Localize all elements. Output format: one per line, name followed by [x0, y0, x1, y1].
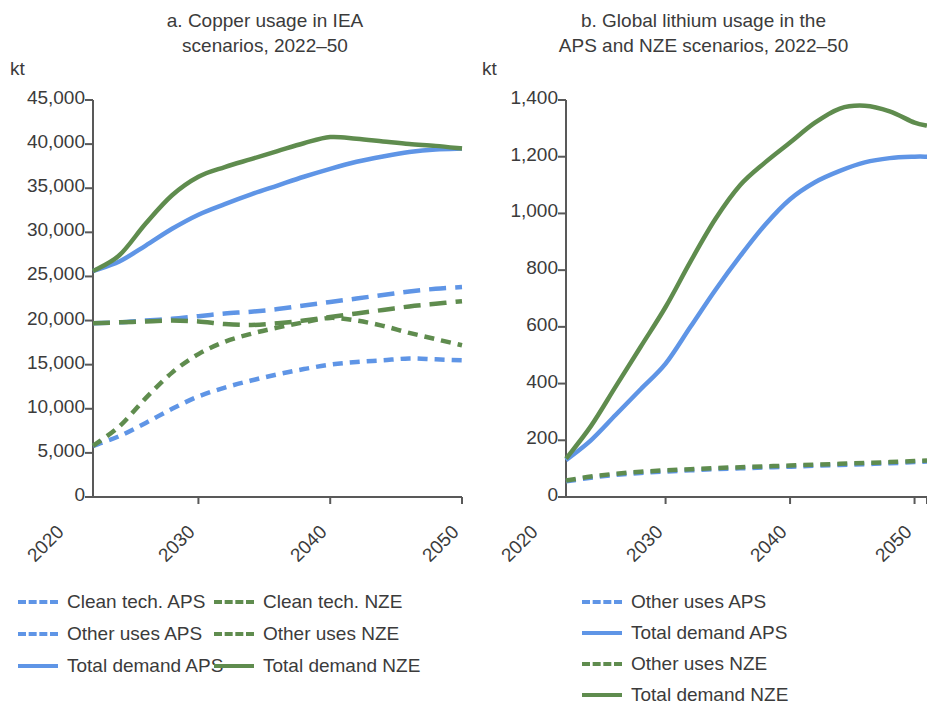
y-axis-tick-label: 40,000	[0, 131, 85, 153]
y-axis-tick-label: 10,000	[0, 396, 85, 418]
legend-line-swatch-icon	[18, 600, 58, 604]
legend-line-swatch-icon	[582, 662, 622, 666]
panel-lithium: b. Global lithium usage in the APS and N…	[470, 0, 927, 712]
legend-item[interactable]: Other uses NZE	[582, 653, 927, 675]
panel-a-title: a. Copper usage in IEA scenarios, 2022–5…	[0, 8, 470, 58]
legend-item[interactable]: Clean tech. APS	[18, 591, 214, 613]
y-axis-tick-label: 0	[470, 484, 558, 506]
figure-root: a. Copper usage in IEA scenarios, 2022–5…	[0, 0, 927, 712]
legend-line-swatch-icon	[18, 632, 58, 636]
y-axis-tick-label: 5,000	[0, 440, 85, 462]
legend-item[interactable]: Total demand APS	[582, 622, 927, 644]
y-axis-tick-label: 400	[470, 371, 558, 393]
legend-item-label: Total demand NZE	[631, 684, 788, 706]
legend-line-swatch-icon	[214, 600, 254, 604]
legend-line-swatch-icon	[582, 693, 622, 697]
legend-item-label: Total demand APS	[67, 655, 223, 677]
series-line	[93, 358, 462, 445]
x-axis-tick-label: 2020	[497, 521, 542, 566]
y-axis-tick-label: 200	[470, 427, 558, 449]
legend-item[interactable]: Other uses NZE	[214, 623, 410, 645]
x-axis-tick-label: 2030	[622, 521, 667, 566]
y-axis-tick-label: 15,000	[0, 352, 85, 374]
series-line	[93, 301, 462, 325]
legend-item-label: Other uses APS	[67, 623, 202, 645]
legend-item-label: Other uses NZE	[263, 623, 399, 645]
x-axis-tick-label: 2040	[746, 521, 791, 566]
panel-a-unit-label: kt	[10, 58, 25, 80]
lithium-chart-plot: 02004006008001,0001,2001,400	[470, 92, 927, 504]
series-line	[93, 137, 462, 271]
series-line	[93, 149, 462, 272]
series-line	[566, 157, 927, 461]
legend-item[interactable]: Other uses APS	[582, 591, 927, 613]
legend-line-swatch-icon	[18, 664, 58, 668]
legend-line-swatch-icon	[214, 632, 254, 636]
y-axis-tick-label: 25,000	[0, 263, 85, 285]
y-axis-tick-label: 800	[470, 257, 558, 279]
y-axis-tick-label: 35,000	[0, 175, 85, 197]
y-axis-tick-label: 1,200	[470, 144, 558, 166]
panel-b-unit-label: kt	[482, 58, 497, 80]
x-axis-tick-label: 2040	[286, 521, 331, 566]
legend-item-label: Other uses NZE	[631, 653, 767, 675]
legend-item[interactable]: Clean tech. NZE	[214, 591, 410, 613]
series-line	[93, 318, 462, 446]
legend-line-swatch-icon	[582, 631, 622, 635]
series-line	[566, 460, 927, 480]
x-axis-tick-label: 2020	[23, 521, 68, 566]
y-axis-tick-label: 0	[0, 484, 85, 506]
copper-chart-plot: 05,00010,00015,00020,00025,00030,00035,0…	[0, 92, 470, 504]
legend-item-label: Clean tech. NZE	[263, 591, 402, 613]
x-axis-tick-label: 2030	[154, 521, 199, 566]
copper-x-axis-labels: 2020203020402050	[0, 505, 470, 595]
legend-item-label: Clean tech. APS	[67, 591, 205, 613]
legend-item[interactable]: Other uses APS	[18, 623, 214, 645]
y-axis-tick-label: 30,000	[0, 219, 85, 241]
panel-b-title: b. Global lithium usage in the APS and N…	[470, 8, 927, 58]
legend-item[interactable]: Total demand NZE	[214, 655, 410, 677]
y-axis-tick-label: 45,000	[0, 87, 85, 109]
legend-line-swatch-icon	[582, 600, 622, 604]
x-axis-tick-label: 2050	[871, 521, 916, 566]
legend-item[interactable]: Total demand NZE	[582, 684, 927, 706]
legend-item-label: Other uses APS	[631, 591, 766, 613]
panel-copper: a. Copper usage in IEA scenarios, 2022–5…	[0, 0, 470, 712]
y-axis-tick-label: 20,000	[0, 308, 85, 330]
y-axis-tick-label: 1,400	[470, 87, 558, 109]
legend-line-swatch-icon	[214, 664, 254, 668]
x-axis-tick-label: 2050	[418, 521, 463, 566]
legend-item-label: Total demand APS	[631, 622, 787, 644]
legend-item-label: Total demand NZE	[263, 655, 420, 677]
copper-legend: Clean tech. APSClean tech. NZEOther uses…	[18, 586, 470, 682]
y-axis-tick-label: 1,000	[470, 200, 558, 222]
legend-item[interactable]: Total demand APS	[18, 655, 214, 677]
lithium-x-axis-labels: 2020203020402050	[470, 505, 927, 595]
y-axis-tick-label: 600	[470, 314, 558, 336]
lithium-legend: Other uses APSTotal demand APSOther uses…	[582, 586, 927, 710]
